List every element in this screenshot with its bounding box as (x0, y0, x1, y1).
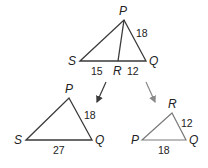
vertex-label-p: P (119, 4, 127, 18)
vertex-label-p: P (65, 82, 73, 96)
side-label-rq: 12 (127, 65, 139, 77)
arrow-right-icon (146, 82, 155, 102)
vertex-label-q: Q (95, 133, 104, 147)
segment-pr (118, 20, 124, 61)
triangle-psq-separated (26, 98, 92, 140)
similar-triangles-diagram: P S Q R 18 15 12 P S Q 18 27 R P Q 12 18 (0, 0, 208, 168)
side-label-pq: 18 (136, 27, 148, 39)
vertex-label-r: R (113, 64, 122, 78)
top-triangle: P S Q R 18 15 12 (68, 4, 158, 78)
vertex-label-s: S (68, 54, 76, 68)
arrow-left-icon (97, 82, 106, 102)
vertex-label-q: Q (149, 54, 158, 68)
vertex-label-s: S (14, 133, 22, 147)
vertex-label-q: Q (189, 133, 198, 147)
right-triangle: R P Q 12 18 (131, 97, 198, 156)
side-label-sq: 27 (53, 144, 65, 156)
side-label-rq: 12 (181, 117, 193, 129)
side-label-sr: 15 (91, 65, 103, 77)
side-label-pq: 18 (84, 109, 96, 121)
vertex-label-p: P (131, 133, 139, 147)
left-triangle: P S Q 18 27 (14, 82, 104, 156)
triangle-prq-separated (142, 113, 186, 140)
side-label-pq: 18 (158, 144, 170, 156)
vertex-label-r: R (168, 97, 177, 111)
